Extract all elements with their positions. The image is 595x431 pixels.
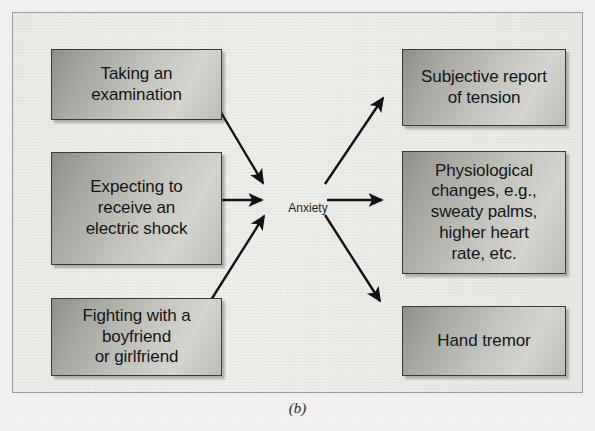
box-tension-label: Subjective report of tension [417,67,551,108]
center-node-anxiety: Anxiety [277,201,339,215]
diagram-frame: Taking an examination Expecting to recei… [12,12,583,393]
box-subjective-report-of-tension: Subjective report of tension [402,49,566,126]
figure-caption: (b) [0,400,595,417]
arrow-anxiety-to-tension [325,98,383,184]
box-shock-label: Expecting to receive an electric shock [82,177,192,239]
box-fighting-label: Fighting with a boyfriend or girlfriend [78,306,194,368]
box-exam-label: Taking an examination [87,64,186,105]
box-physio-label: Physiological changes, e.g., sweaty palm… [427,161,541,265]
figure-panel-b: rkn drsh nhns oy nnrnhs rnn mnnrsum enn … [0,0,595,431]
box-tremor-label: Hand tremor [433,331,534,352]
box-expecting-electric-shock: Expecting to receive an electric shock [51,152,222,265]
box-fighting-with-partner: Fighting with a boyfriend or girlfriend [51,298,222,376]
box-hand-tremor: Hand tremor [402,306,566,376]
box-physiological-changes: Physiological changes, e.g., sweaty palm… [402,151,566,274]
box-taking-an-examination: Taking an examination [51,49,222,120]
arrow-anxiety-to-tremor [325,215,380,301]
